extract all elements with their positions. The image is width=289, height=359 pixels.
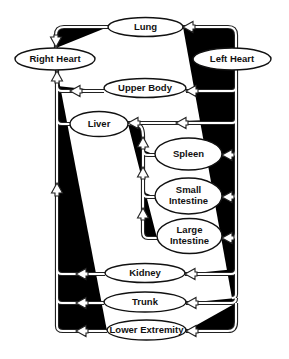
node-right-heart: Right Heart: [15, 48, 95, 70]
node-small-intestine: Small Intestine: [155, 178, 222, 214]
node-label: Intestine: [169, 195, 208, 206]
node-lower-extremity: Lower Extremity: [107, 320, 186, 340]
node-label: Spleen: [173, 148, 204, 159]
node-label: Small: [176, 184, 201, 195]
vessel-pipes: [56, 27, 236, 331]
arrow-icon: [52, 71, 63, 83]
node-spleen: Spleen: [155, 138, 222, 170]
arrow-icon: [176, 118, 188, 129]
node-label: Right Heart: [29, 53, 81, 64]
node-label: Large: [177, 224, 203, 235]
node-liver: Liver: [70, 112, 128, 137]
arrow-icon: [186, 326, 198, 337]
node-label: Liver: [88, 118, 111, 129]
arrow-icon: [70, 86, 82, 97]
node-kidney: Kidney: [105, 264, 185, 283]
node-upper-body: Upper Body: [104, 79, 186, 98]
node-label: Lung: [134, 21, 157, 32]
node-label: Lower Extremity: [110, 324, 185, 335]
node-trunk: Trunk: [104, 292, 186, 312]
node-label: Upper Body: [118, 82, 173, 93]
arrow-icon: [186, 298, 198, 309]
arrow-icon: [138, 167, 149, 179]
arrow-icon: [185, 269, 197, 280]
circulation-diagram: Lung Right Heart Left Heart Upper Body L…: [0, 0, 289, 359]
node-label: Intestine: [170, 235, 209, 246]
node-lung: Lung: [108, 18, 183, 37]
node-label: Trunk: [132, 296, 159, 307]
node-label: Left Heart: [210, 53, 255, 64]
node-label: Kidney: [129, 267, 161, 278]
node-left-heart: Left Heart: [193, 48, 271, 70]
node-large-intestine: Large Intestine: [157, 219, 222, 254]
arrow-icon: [186, 86, 198, 97]
